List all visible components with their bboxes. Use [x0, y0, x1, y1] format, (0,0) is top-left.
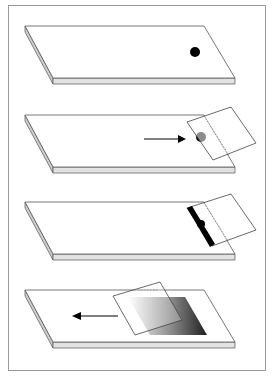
step-2	[25, 107, 256, 173]
step-4	[25, 282, 235, 348]
step-1	[25, 26, 235, 84]
smear-procedure-diagram	[0, 0, 273, 377]
slide	[25, 26, 235, 84]
blood-drop	[190, 47, 200, 57]
step-3	[25, 194, 256, 260]
